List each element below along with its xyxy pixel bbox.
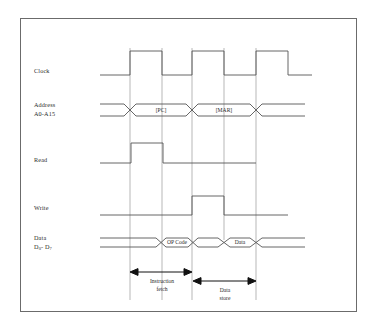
- bus-value-data: Data: [222, 239, 258, 245]
- annotation-instruction-fetch: Instruction fetch: [131, 277, 193, 293]
- signal-label-address-line1: Address: [34, 101, 55, 108]
- signal-label-address: Address A0-A15: [34, 100, 55, 118]
- signal-label-data: Data D0- D7: [34, 233, 52, 253]
- address-bus-waveform: [100, 104, 305, 116]
- annotation-instruction-fetch-line1: Instruction: [150, 278, 174, 284]
- signal-label-address-line2: A0-A15: [34, 110, 55, 117]
- signal-label-data-line1: Data: [34, 234, 46, 241]
- data-bit-sub-high: 7: [50, 246, 52, 251]
- write-waveform: [100, 196, 288, 215]
- signal-label-read: Read: [34, 155, 47, 164]
- vertical-gridlines: [130, 48, 256, 300]
- bus-value-pc: [PC]: [141, 107, 181, 113]
- timing-diagram-figure: Clock Address A0-A15 Read Write Data D0-…: [0, 0, 376, 328]
- annotation-data-store-line1: Data: [220, 287, 231, 293]
- signal-label-data-bits: D0- D7: [34, 243, 52, 250]
- bus-value-mar: [MAR]: [204, 107, 244, 113]
- bus-value-op-code: OP Code: [155, 239, 199, 245]
- signal-label-clock: Clock: [34, 66, 50, 75]
- annotation-instruction-fetch-line2: fetch: [156, 286, 167, 292]
- annotation-data-store: Data store: [194, 286, 256, 302]
- data-bus-waveform: [100, 238, 305, 247]
- clock-waveform: [100, 51, 312, 75]
- annotation-data-store-line2: store: [220, 295, 231, 301]
- read-waveform: [100, 143, 256, 163]
- signal-label-write: Write: [34, 203, 49, 212]
